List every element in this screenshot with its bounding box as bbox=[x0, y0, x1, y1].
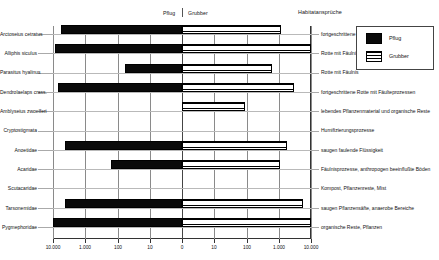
bar-grubber bbox=[182, 25, 281, 34]
habitat-label: saugen faulende Flüssigkeit bbox=[321, 147, 383, 153]
habitat-label: organische Reste, Pflanzen bbox=[321, 224, 382, 230]
row-gridline bbox=[53, 34, 311, 35]
habitat-label: Humifizierungsprozesse bbox=[321, 127, 374, 133]
axis-tick bbox=[214, 239, 215, 243]
habitat-label: Rotte mit Fäulnis bbox=[321, 50, 359, 56]
taxon-label: Cryptostigmata bbox=[0, 127, 37, 133]
leader-line-left bbox=[38, 169, 53, 170]
leader-line-right bbox=[311, 53, 319, 54]
leader-line-right bbox=[311, 92, 319, 93]
axis-tick-label: 100 bbox=[243, 245, 251, 250]
leader-line-right bbox=[311, 208, 319, 209]
leader-line-right bbox=[311, 111, 319, 112]
taxon-label: Scutacaridae bbox=[0, 185, 37, 191]
leader-line-left bbox=[38, 131, 53, 132]
row-gridline bbox=[53, 131, 311, 132]
axis-tick-label: 0 bbox=[181, 245, 184, 250]
header-habitat-title: Habitatansprüche bbox=[298, 9, 342, 15]
bar-grubber bbox=[182, 141, 287, 150]
habitat-label: Kompost, Pflanzenreste, Mist bbox=[321, 185, 386, 191]
bar-grubber bbox=[182, 160, 280, 169]
axis-tick-label: 10 bbox=[147, 245, 152, 250]
axis-tick bbox=[311, 239, 312, 243]
taxon-label: Amblyseius zwoelferi bbox=[0, 108, 37, 114]
row-gridline bbox=[53, 150, 311, 151]
legend-swatch-grubber bbox=[366, 51, 382, 62]
habitat-label: lebendes Pflanzenmaterial und organische… bbox=[321, 108, 430, 114]
bar-grubber bbox=[182, 218, 311, 227]
axis-tick bbox=[182, 239, 183, 243]
bar-pflug bbox=[61, 25, 182, 34]
header-treatment-pflug: Pflug bbox=[163, 10, 175, 16]
leader-line-right bbox=[311, 150, 319, 151]
axis-tick-label: 10.000 bbox=[304, 245, 319, 250]
bar-grubber bbox=[182, 83, 294, 92]
bar-pflug bbox=[55, 44, 182, 53]
axis-tick-label: 10 bbox=[211, 245, 216, 250]
row-gridline bbox=[53, 92, 311, 93]
leader-line-left bbox=[38, 188, 53, 189]
leader-line-left bbox=[38, 208, 53, 209]
bar-pflug bbox=[65, 199, 182, 208]
header-divider bbox=[182, 8, 183, 17]
taxon-label: Anoetidae bbox=[0, 147, 37, 153]
habitat-label: fortgeschrittene Rotte mit Fäulteprozess… bbox=[321, 89, 415, 95]
leader-line-left bbox=[38, 150, 53, 151]
legend-label-grubber: Grubber bbox=[389, 53, 409, 59]
chart-container: Pflug Grubber Habitatansprüche Arctoseiu… bbox=[0, 0, 439, 260]
axis-tick bbox=[53, 239, 54, 243]
legend-label-pflug: Pflug bbox=[389, 35, 401, 41]
leader-line-left bbox=[38, 53, 53, 54]
taxon-label: Arctoseius cetratus bbox=[0, 31, 37, 37]
axis-tick bbox=[247, 239, 248, 243]
taxon-label: Dendrolaelaps crass. bbox=[0, 89, 37, 95]
taxon-label: Pygmephoridae bbox=[0, 224, 37, 230]
habitat-label: saugen Pflanzensäfte, anaerobe Bereiche bbox=[321, 205, 414, 211]
leader-line-right bbox=[311, 73, 319, 74]
bar-pflug bbox=[111, 160, 182, 169]
bar-pflug bbox=[65, 141, 182, 150]
bar-pflug bbox=[53, 218, 182, 227]
bar-grubber bbox=[182, 102, 245, 111]
row-gridline bbox=[53, 188, 311, 189]
axis-tick-label: 10.000 bbox=[46, 245, 61, 250]
leader-line-left bbox=[38, 227, 53, 228]
leader-line-right bbox=[311, 131, 319, 132]
row-gridline bbox=[53, 227, 311, 228]
leader-line-right bbox=[311, 227, 319, 228]
axis-tick bbox=[279, 239, 280, 243]
taxon-label: Tarsonemidae bbox=[0, 205, 37, 211]
axis-tick-label: 100 bbox=[114, 245, 122, 250]
header-treatment-grubber: Grubber bbox=[188, 10, 208, 16]
axis-tick bbox=[118, 239, 119, 243]
taxon-label: Acaridae bbox=[0, 166, 37, 172]
leader-line-right bbox=[311, 188, 319, 189]
row-gridline bbox=[53, 208, 311, 209]
axis-tick-label: 1.000 bbox=[273, 245, 285, 250]
habitat-label: Fäulnisprozesse, anthropogen beeinflußte… bbox=[321, 166, 430, 172]
bar-grubber bbox=[182, 64, 272, 73]
axis-tick-label: 1.000 bbox=[79, 245, 91, 250]
bar-grubber bbox=[182, 199, 303, 208]
bar-pflug bbox=[58, 83, 182, 92]
habitat-label: Rotte mit Fäulnis bbox=[321, 69, 359, 75]
axis-tick bbox=[85, 239, 86, 243]
row-gridline bbox=[53, 169, 311, 170]
bar-pflug bbox=[125, 64, 182, 73]
plot-area bbox=[53, 26, 311, 239]
leader-line-right bbox=[311, 169, 319, 170]
bar-grubber bbox=[182, 44, 311, 53]
legend: Pflug Grubber bbox=[356, 26, 434, 70]
taxon-label: Alliphis siculus bbox=[0, 50, 37, 56]
row-gridline bbox=[53, 73, 311, 74]
legend-swatch-pflug bbox=[366, 33, 382, 44]
axis-tick bbox=[150, 239, 151, 243]
taxon-label: Parasitus hyalinus bbox=[0, 69, 37, 75]
leader-line-right bbox=[311, 34, 319, 35]
